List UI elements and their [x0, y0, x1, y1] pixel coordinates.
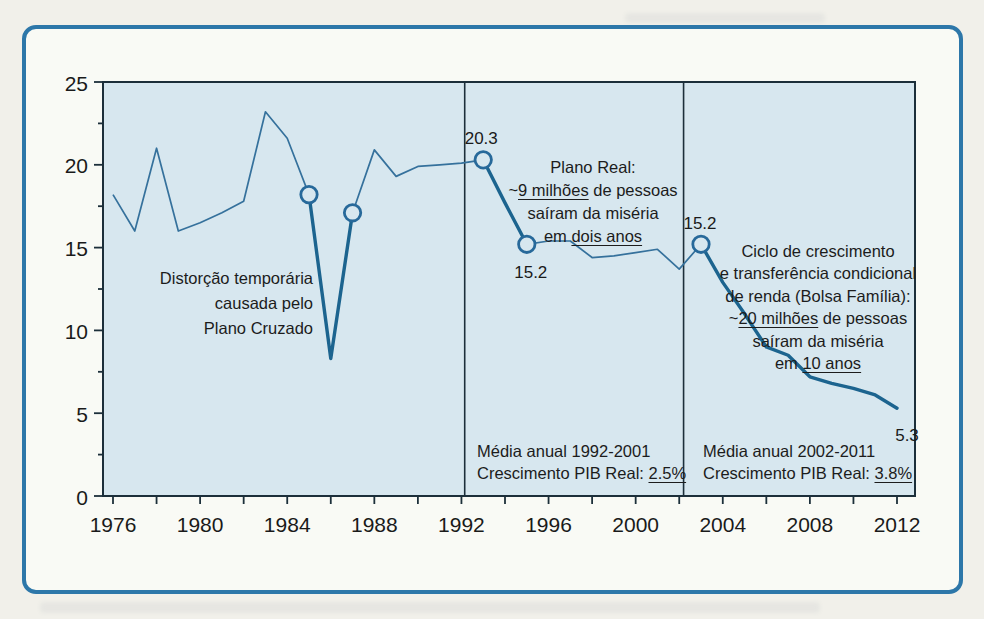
x-tick-label: 2008: [787, 513, 834, 536]
milestone-ring: [693, 236, 709, 252]
milestone-ring: [301, 186, 317, 202]
x-tick-label: 1992: [438, 513, 485, 536]
x-tick-label: 1980: [177, 513, 224, 536]
scanned-page: 1976198019841988199219962000200420082012…: [0, 0, 984, 619]
y-tick-label: 25: [65, 72, 88, 95]
x-tick-label: 1984: [264, 513, 311, 536]
plot-area: [103, 82, 915, 496]
milestone-ring: [519, 236, 535, 252]
milestone-ring: [344, 205, 360, 221]
y-tick-label: 20: [65, 154, 88, 177]
x-tick-label: 2000: [612, 513, 659, 536]
x-tick-label: 2004: [699, 513, 746, 536]
x-tick-label: 2012: [874, 513, 921, 536]
y-tick-label: 0: [76, 486, 88, 509]
y-tick-label: 15: [65, 237, 88, 260]
x-tick-label: 1996: [525, 513, 572, 536]
line-chart: 1976198019841988199219962000200420082012…: [0, 0, 984, 619]
x-tick-label: 1976: [90, 513, 137, 536]
point-label: 5.3: [895, 426, 919, 445]
point-label: 15.2: [514, 263, 547, 282]
milestone-ring: [475, 152, 491, 168]
x-tick-label: 1988: [351, 513, 398, 536]
point-label: 15.2: [683, 214, 716, 233]
point-label: 20.3: [465, 129, 498, 148]
y-tick-label: 5: [76, 403, 88, 426]
y-tick-label: 10: [65, 320, 88, 343]
